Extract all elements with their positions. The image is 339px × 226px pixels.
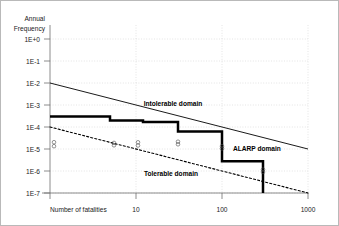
marker-point	[176, 143, 180, 147]
annotation-alarp-domain: ALARP domain	[233, 145, 281, 152]
ytick-label-1e-1: 1E-1	[26, 58, 40, 65]
ytick-label-1e-4: 1E-4	[26, 124, 40, 131]
risk-criteria-chart: Annual Frequency 1E+0 1E-1 1E-2 1E-3 1E-…	[1, 1, 339, 226]
y-tick-labels: 1E+0 1E-1 1E-2 1E-3 1E-4 1E-5 1E-6 1E-7	[24, 36, 40, 197]
x-tick-labels: Number of fatalities 10 100 1000	[50, 206, 316, 213]
xtick-label-1000: 1000	[301, 206, 316, 213]
gridlines	[50, 25, 308, 193]
domain-annotations: Intolerable domain ALARP domain Tolerabl…	[144, 100, 281, 177]
ytick-label-1e-3: 1E-3	[26, 102, 40, 109]
xtick-label-10: 10	[132, 206, 140, 213]
ytick-label-1e-6: 1E-6	[26, 168, 40, 175]
y-axis-title-line1: Annual	[24, 15, 45, 22]
ytick-label-1e0: 1E+0	[24, 36, 40, 43]
annotation-intolerable-domain: Intolerable domain	[144, 100, 203, 107]
annotation-tolerable-domain: Tolerable domain	[144, 170, 198, 177]
y-axis-title: Annual Frequency	[14, 15, 46, 33]
xtick-label-100: 100	[216, 206, 227, 213]
ytick-label-1e-7: 1E-7	[26, 190, 40, 197]
tolerable-criterion-line	[50, 127, 308, 193]
marker-point	[52, 144, 56, 148]
ytick-label-1e-5: 1E-5	[26, 146, 40, 153]
y-axis-title-line2: Frequency	[14, 25, 46, 33]
ytick-label-1e-2: 1E-2	[26, 80, 40, 87]
fn-curve-figure: Annual Frequency 1E+0 1E-1 1E-2 1E-3 1E-…	[0, 0, 339, 226]
x-axis-title: Number of fatalities	[50, 206, 108, 213]
marker-point	[52, 140, 56, 144]
marker-point	[112, 144, 116, 148]
